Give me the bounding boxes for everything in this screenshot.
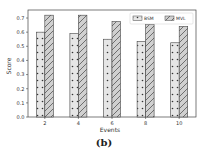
bar-mvl-6 — [112, 22, 121, 117]
legend-swatch-bsm — [133, 16, 142, 21]
y-tick-label: 0.6 — [17, 29, 25, 35]
legend-label-bsm: BSM — [144, 16, 154, 21]
x-tick-label: 2 — [43, 120, 46, 126]
y-tick-label: 0.3 — [17, 71, 25, 77]
figure-caption: (b) — [0, 137, 208, 148]
y-tick-label: 0.4 — [17, 57, 25, 63]
y-tick-label: 0.7 — [17, 15, 25, 21]
y-tick-label: 0.0 — [17, 114, 25, 120]
legend-swatch-mvl — [165, 16, 174, 21]
bar-mvl-2 — [45, 15, 54, 117]
y-tick-label: 0.1 — [17, 100, 25, 106]
y-axis-label: Score — [5, 57, 12, 74]
bar-mvl-4 — [78, 15, 87, 117]
plot-area: 0.00.10.20.30.40.50.60.7246810BSMMVL — [17, 10, 196, 126]
y-tick-label: 0.2 — [17, 86, 25, 92]
bar-mvl-8 — [146, 24, 155, 117]
x-tick-label: 8 — [144, 120, 147, 126]
x-axis-label: Events — [100, 126, 120, 133]
bar-bsm-2 — [36, 32, 45, 117]
bar-bsm-8 — [137, 41, 146, 117]
y-tick-label: 0.5 — [17, 43, 25, 49]
legend: BSMMVL — [130, 13, 193, 24]
bar-chart: 0.00.10.20.30.40.50.60.7246810BSMMVL Sco… — [0, 0, 208, 135]
x-tick-label: 4 — [77, 120, 80, 126]
bar-bsm-10 — [171, 43, 180, 117]
bar-mvl-10 — [179, 27, 188, 117]
x-tick-label: 10 — [176, 120, 182, 126]
bar-bsm-4 — [70, 34, 79, 117]
bar-bsm-6 — [104, 39, 113, 117]
legend-label-mvl: MVL — [176, 16, 186, 21]
